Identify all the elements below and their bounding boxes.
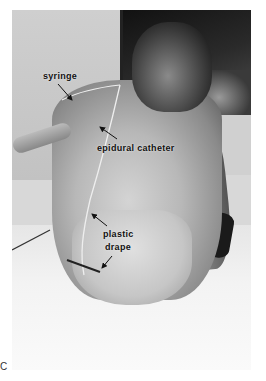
label-plastic: plastic <box>103 229 134 239</box>
label-epidural-catheter: epidural catheter <box>97 143 175 153</box>
epidural-catheter-line <box>12 10 251 370</box>
label-drape: drape <box>105 242 131 252</box>
label-syringe: syringe <box>43 71 77 81</box>
clinical-photo <box>12 10 251 370</box>
figure-panel-letter: C <box>0 361 7 372</box>
